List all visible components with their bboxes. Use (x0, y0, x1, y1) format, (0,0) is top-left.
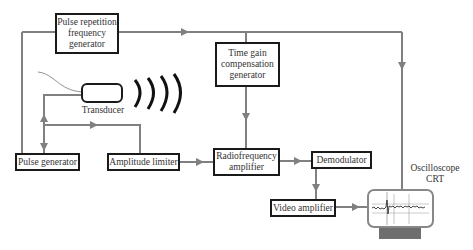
oscilloscope-label: Oscilloscope CRT (405, 163, 465, 185)
oscilloscope-crt-icon (368, 190, 433, 239)
transducer-label: Transducer (80, 105, 126, 116)
demodulator-block: Demodulator (311, 151, 372, 169)
transducer-icon (82, 84, 122, 102)
pulse-generator-block: Pulse generator (15, 153, 80, 171)
video-amplifier-block: Video amplifier (270, 199, 336, 217)
tgc-generator-block: Time gain compensation generator (215, 42, 280, 87)
sound-waves-icon (135, 74, 181, 113)
rf-amplifier-block: Radiofrequency amplifier (213, 148, 280, 176)
prf-generator-block: Pulse repetition frequency generator (55, 13, 119, 54)
line-echo-to-limiter (92, 125, 140, 153)
ultrasound-block-diagram: Pulse repetition frequency generator Tim… (0, 0, 473, 250)
transducer-cable (38, 72, 82, 92)
amplitude-limiter-block: Amplitude limiter (107, 153, 180, 171)
